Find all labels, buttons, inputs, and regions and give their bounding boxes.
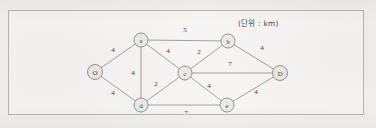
- node-label-a: a: [140, 37, 143, 44]
- graph-nodes-layer: OabcdeD: [88, 33, 288, 112]
- graph-edge-c-e: [191, 77, 222, 101]
- edge-weight-label-c-e: 4: [207, 82, 211, 90]
- graph-node-a[interactable]: a: [134, 33, 148, 47]
- graph-edge-b-D: [234, 45, 274, 69]
- node-label-c: c: [184, 70, 187, 77]
- node-label-b: b: [226, 38, 229, 45]
- node-label-D: D: [278, 70, 283, 77]
- edge-weight-label-c-b: 2: [197, 48, 201, 56]
- graph-node-b[interactable]: b: [221, 34, 235, 48]
- graph-node-D[interactable]: D: [273, 66, 288, 81]
- node-label-e: e: [226, 102, 229, 109]
- unit-caption-label: (단위 : km): [238, 17, 279, 28]
- graph-node-e[interactable]: e: [220, 98, 234, 112]
- edge-weight-label-a-b: 5: [183, 26, 187, 34]
- scanned-figure-page: OabcdeD 444455444422227744444477 (단위 : k…: [0, 0, 376, 128]
- edge-weight-label-d-e: 7: [184, 109, 188, 117]
- graph-node-O[interactable]: O: [88, 65, 103, 80]
- graph-node-d[interactable]: d: [134, 98, 148, 112]
- edge-weight-label-b-D: 4: [260, 44, 264, 52]
- edge-weight-label-a-d: 4: [131, 69, 135, 77]
- edge-weight-label-O-d: 4: [111, 89, 115, 97]
- graph-edge-c-b: [191, 45, 223, 69]
- graph-edge-a-c: [147, 44, 180, 69]
- edge-weight-label-e-D: 4: [254, 88, 258, 96]
- node-label-O: O: [93, 69, 98, 76]
- graph-edge-a-b: [148, 40, 221, 41]
- graph-node-c[interactable]: c: [178, 66, 192, 80]
- graph-edge-O-a: [101, 44, 135, 68]
- edge-weight-label-c-d: 2: [154, 80, 158, 88]
- graph-edge-c-d: [147, 77, 180, 101]
- network-graph-diagram: OabcdeD 444455444422227744444477: [0, 0, 376, 128]
- graph-edge-O-d: [101, 76, 135, 101]
- edge-weight-label-O-a: 4: [111, 46, 115, 54]
- edge-weight-label-c-D: 7: [228, 60, 232, 68]
- edge-weight-label-a-c: 4: [166, 47, 170, 55]
